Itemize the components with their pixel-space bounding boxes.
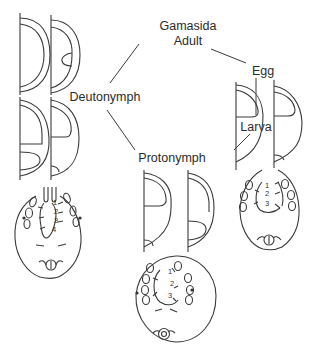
label-egg: Egg: [252, 64, 274, 78]
label-larva: Larva: [240, 120, 271, 134]
seta-number: 1: [168, 267, 172, 276]
label-adult: Adult: [174, 34, 203, 48]
seta-number: 4: [52, 225, 56, 234]
seta-number: 2: [265, 189, 269, 198]
profile-shield: [51, 15, 80, 95]
profile-shield: [51, 97, 79, 180]
seta-number: 3: [265, 199, 269, 208]
edge-adult-egg: [211, 49, 246, 63]
profile-shield: [144, 170, 171, 252]
seta-number: 2: [54, 207, 58, 216]
seta-number: 3: [54, 216, 58, 225]
profile-shield: [274, 80, 302, 168]
life-cycle-diagram: Gamasida Adult Egg Larva Protonymph Deut…: [0, 0, 319, 358]
seta-number: 3: [168, 291, 172, 300]
label-protonymph: Protonymph: [138, 151, 205, 165]
seta-number: 1: [53, 198, 57, 207]
label-deutonymph: Deutonymph: [70, 90, 141, 104]
protonymph-profiles: [144, 170, 214, 252]
protonymph-dorsal-view: 1 2 3: [135, 256, 216, 342]
larva-dorsal-view: 1 2 3: [240, 170, 300, 250]
edge-protonymph-deutonymph: [107, 110, 135, 150]
label-gamasida: Gamasida: [160, 19, 217, 33]
seta-number: 2: [170, 279, 174, 288]
deutonymph-dorsal-view: 1 2 3 4: [15, 187, 82, 278]
profile-shield: [188, 170, 214, 252]
edge-deutonymph-adult: [110, 44, 139, 83]
profile-shield: [20, 13, 50, 95]
profile-shield: [20, 97, 49, 180]
